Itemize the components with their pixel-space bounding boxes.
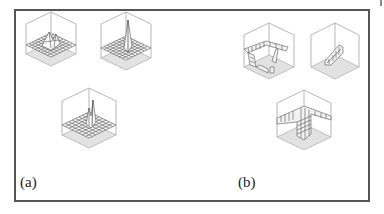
surface-plot-icon [95, 10, 157, 78]
surface-plot-icon [238, 21, 300, 83]
surface-plot-icon [305, 21, 365, 83]
panel-label-b: (b) [238, 174, 256, 191]
plot-b3 [271, 88, 337, 154]
surface-plot-icon [20, 10, 82, 78]
surface-plot-icon [56, 86, 122, 156]
plot-b2 [305, 21, 365, 83]
plot-a1 [20, 10, 82, 78]
plot-b1 [238, 21, 300, 83]
corner-tick [380, 0, 382, 6]
surface-plot-icon [271, 88, 337, 154]
plot-a3 [56, 86, 122, 156]
plot-a2 [95, 10, 157, 78]
panel-label-a: (a) [20, 174, 37, 191]
